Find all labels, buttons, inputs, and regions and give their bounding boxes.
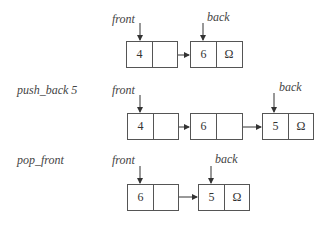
back-label: back [215,152,238,167]
node-next-null: Ω [288,114,313,139]
node-next [152,42,177,67]
list-node: 4 [126,41,178,68]
back-label: back [207,10,230,25]
back-label: back [279,80,302,95]
node-next-null: Ω [216,42,241,67]
operation-label: pop_front [17,153,64,168]
node-value: 5 [263,114,288,139]
node-value: 6 [191,42,216,67]
node-value: 5 [199,185,224,210]
node-value: 4 [127,42,152,67]
list-node: 6 [127,184,179,211]
node-next [216,114,241,139]
node-value: 4 [128,114,153,139]
list-node: 5 Ω [262,113,314,140]
node-next [153,185,178,210]
list-node: 4 [127,113,179,140]
list-node: 6 Ω [190,41,243,68]
list-node: 5 Ω [198,184,250,211]
front-label: front [112,12,135,27]
front-label: front [112,83,135,98]
list-node: 6 [190,113,243,140]
node-value: 6 [128,185,153,210]
node-next [153,114,178,139]
operation-label: push_back 5 [17,83,77,98]
node-value: 6 [191,114,216,139]
node-next-null: Ω [224,185,249,210]
front-label: front [112,153,135,168]
